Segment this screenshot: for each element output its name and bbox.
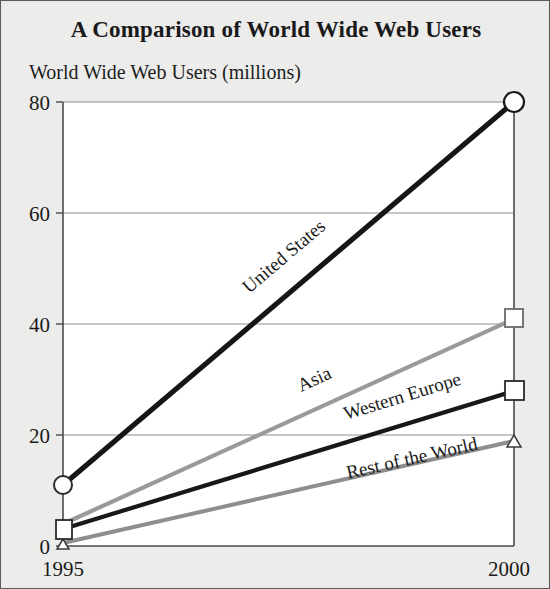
marker-asia-2000 <box>505 309 523 327</box>
ytick-label-40: 40 <box>29 313 50 337</box>
ytick-label-20: 20 <box>29 424 50 448</box>
marker-united-states-1995 <box>54 476 72 494</box>
xtick-label-2000: 2000 <box>488 557 530 581</box>
ytick-label-0: 0 <box>40 535 51 559</box>
chart-figure: A Comparison of World Wide Web Users Wor… <box>0 0 550 589</box>
marker-western-europe-1995 <box>56 520 72 539</box>
marker-united-states-2000 <box>504 92 524 112</box>
marker-western-europe-2000 <box>505 381 524 400</box>
xtick-label-1995: 1995 <box>42 557 84 581</box>
ytick-label-60: 60 <box>29 202 50 226</box>
ytick-label-80: 80 <box>29 91 50 115</box>
plot-area: 80 60 40 20 0 1995 2000 <box>1 1 550 589</box>
